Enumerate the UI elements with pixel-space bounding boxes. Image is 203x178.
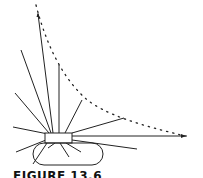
source-box xyxy=(45,133,72,143)
ray xyxy=(72,118,124,133)
ray xyxy=(21,50,51,133)
ray-diagram xyxy=(0,0,203,178)
ray xyxy=(48,143,55,148)
ray xyxy=(60,143,69,157)
ray xyxy=(66,143,81,152)
arrowhead-icon xyxy=(181,134,186,138)
ray-vertical-arrow xyxy=(38,14,53,133)
figure-caption: FIGURE 13.6 xyxy=(13,169,102,178)
ray xyxy=(13,127,48,134)
ray xyxy=(65,100,82,133)
dotted-envelope-curve xyxy=(36,5,185,136)
capsule xyxy=(33,143,103,165)
ray xyxy=(16,140,46,152)
ray xyxy=(72,140,137,149)
